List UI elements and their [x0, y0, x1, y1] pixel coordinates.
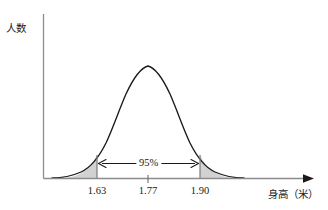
- normal-distribution-figure: 人数 身高（米） 1.63 1.77 1.90 95%: [0, 0, 328, 210]
- x-tick-label-mean: 1.77: [139, 185, 157, 196]
- confidence-interval-label: 95%: [136, 157, 161, 168]
- x-tick-label-lower: 1.63: [88, 185, 106, 196]
- right-tail-shaded-region: [200, 155, 235, 178]
- x-axis-label: 身高（米）: [268, 186, 318, 201]
- y-axis-label: 人数: [6, 20, 26, 35]
- x-tick-label-upper: 1.90: [191, 185, 209, 196]
- plot-area: [0, 0, 328, 210]
- left-tail-shaded-region: [62, 155, 97, 178]
- x-axis-arrowhead-icon: [303, 174, 314, 183]
